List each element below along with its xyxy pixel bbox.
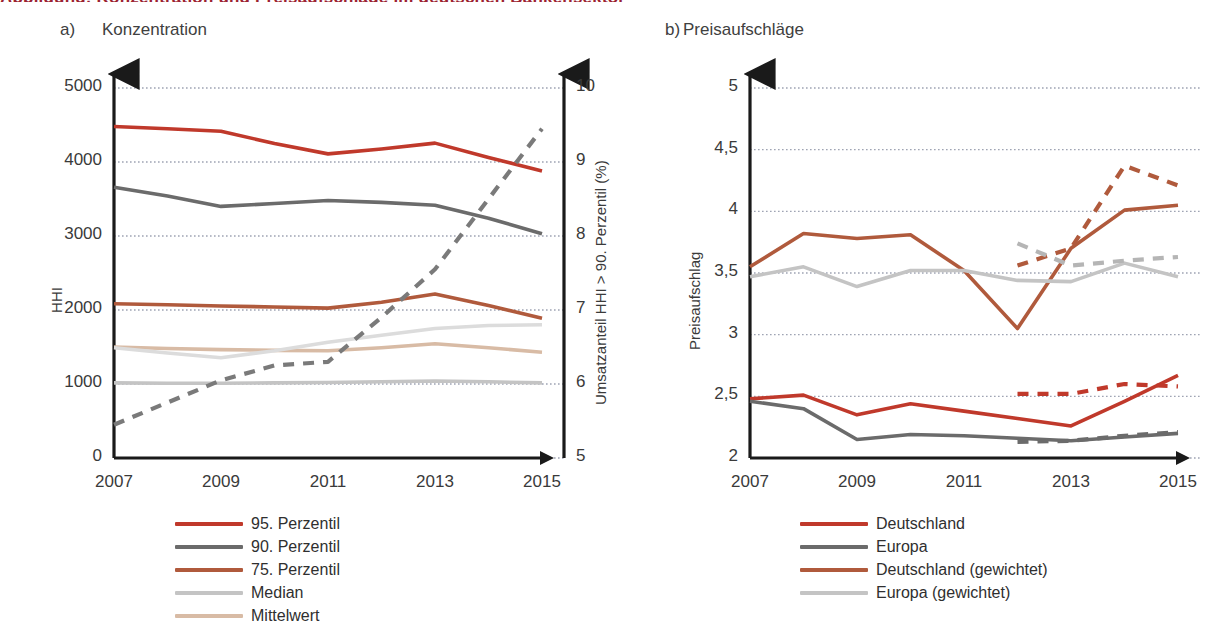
legend-b-swatch-icon bbox=[800, 545, 868, 549]
panel-a-legend: 95. Perzentil90. Perzentil75. PerzentilM… bbox=[175, 512, 340, 627]
panel-b-ytick-2-5: 2,5 bbox=[668, 384, 738, 404]
panel-b-legend: DeutschlandEuropaDeutschland (gewichtet)… bbox=[800, 512, 1048, 604]
panel-a-ytick-right-5: 5 bbox=[576, 446, 610, 466]
legend-b-label: Deutschland (gewichtet) bbox=[876, 558, 1048, 581]
panel-b-y-axis-label: Preisaufschlag bbox=[686, 252, 703, 350]
legend-a-label: Median bbox=[251, 581, 303, 604]
legend-a-swatch-icon bbox=[175, 591, 243, 595]
legend-b-item[interactable]: Europa bbox=[800, 535, 1048, 558]
panel-b-xtick-2011: 2011 bbox=[924, 472, 1004, 492]
legend-a-item[interactable]: Median bbox=[175, 581, 340, 604]
panel-a-series bbox=[114, 126, 542, 424]
axes bbox=[114, 74, 1190, 465]
legend-b-swatch-icon bbox=[800, 522, 868, 526]
legend-b-item[interactable]: Deutschland bbox=[800, 512, 1048, 535]
legend-a-label: Mittelwert bbox=[251, 604, 319, 627]
panel-b-xtick-2013: 2013 bbox=[1031, 472, 1111, 492]
legend-b-swatch-icon bbox=[800, 591, 868, 595]
panel-a-ytick-1000: 1000 bbox=[14, 372, 102, 392]
legend-a-item[interactable]: 75. Perzentil bbox=[175, 558, 340, 581]
panel-a-xtick-2009: 2009 bbox=[181, 472, 261, 492]
panel-b-xtick-2007: 2007 bbox=[710, 472, 790, 492]
panel-b-ytick-4-5: 4,5 bbox=[668, 138, 738, 158]
legend-a-swatch-icon bbox=[175, 522, 243, 526]
panel-b-series bbox=[750, 166, 1178, 442]
legend-b-item[interactable]: Deutschland (gewichtet) bbox=[800, 558, 1048, 581]
legend-a-swatch-icon bbox=[175, 545, 243, 549]
panel-b-ytick-3: 3 bbox=[668, 323, 738, 343]
panel-b-xtick-2015: 2015 bbox=[1138, 472, 1216, 492]
figure-container: Abbildung: Konzentration und Preisaufsch… bbox=[0, 0, 1216, 642]
panel-a-ytick-5000: 5000 bbox=[14, 76, 102, 96]
legend-b-label: Europa bbox=[876, 535, 928, 558]
legend-b-label: Deutschland bbox=[876, 512, 965, 535]
panel-a-ytick-4000: 4000 bbox=[14, 150, 102, 170]
legend-a-label: 95. Perzentil bbox=[251, 512, 340, 535]
legend-a-swatch-icon bbox=[175, 568, 243, 572]
legend-b-label: Europa (gewichtet) bbox=[876, 581, 1010, 604]
legend-b-swatch-icon bbox=[800, 568, 868, 572]
legend-b-item[interactable]: Europa (gewichtet) bbox=[800, 581, 1048, 604]
panel-a-ytick-3000: 3000 bbox=[14, 224, 102, 244]
legend-a-item[interactable]: 95. Perzentil bbox=[175, 512, 340, 535]
legend-a-item[interactable]: 90. Perzentil bbox=[175, 535, 340, 558]
panel-a-xtick-2011: 2011 bbox=[288, 472, 368, 492]
panel-a-y-axis-label: HHI bbox=[48, 287, 65, 313]
panel-b-xtick-2009: 2009 bbox=[817, 472, 897, 492]
panel-b-ytick-3-5: 3,5 bbox=[668, 261, 738, 281]
panel-b-ytick-2: 2 bbox=[668, 446, 738, 466]
legend-a-label: 90. Perzentil bbox=[251, 535, 340, 558]
panel-b-ytick-5: 5 bbox=[668, 76, 738, 96]
legend-a-item[interactable]: Mittelwert bbox=[175, 604, 340, 627]
panel-a-xtick-2007: 2007 bbox=[74, 472, 154, 492]
legend-a-swatch-icon bbox=[175, 614, 243, 618]
panel-a-xtick-2015: 2015 bbox=[502, 472, 582, 492]
panel-a-y-axis-right-label: Umsatzanteil HHI > 90. Perzentil (%) bbox=[592, 160, 609, 405]
panel-b-ytick-4: 4 bbox=[668, 199, 738, 219]
panel-a-ytick-right-10: 10 bbox=[576, 76, 610, 96]
legend-a-label: 75. Perzentil bbox=[251, 558, 340, 581]
panel-a-ytick-0: 0 bbox=[14, 446, 102, 466]
panel-a-xtick-2013: 2013 bbox=[395, 472, 475, 492]
